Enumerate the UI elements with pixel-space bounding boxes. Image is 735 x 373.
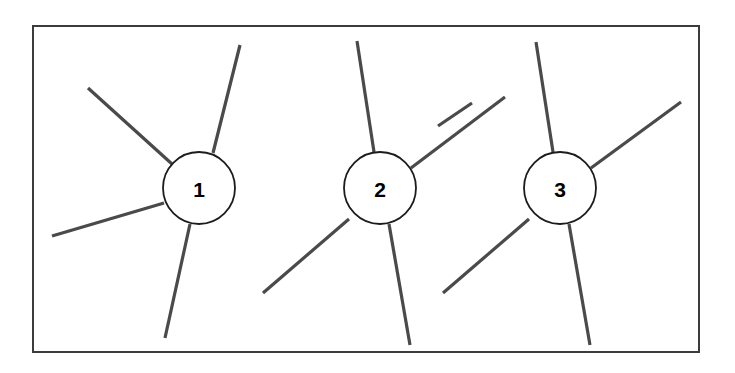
diagram-svg: 123: [0, 0, 735, 373]
node-3-label: 3: [554, 178, 566, 201]
node-1-label: 1: [193, 178, 205, 201]
diagram-canvas: 123: [0, 0, 735, 373]
node-1[interactable]: 1: [163, 152, 235, 224]
node-2-label: 2: [374, 178, 386, 201]
node-2[interactable]: 2: [344, 152, 416, 224]
node-3[interactable]: 3: [524, 152, 596, 224]
